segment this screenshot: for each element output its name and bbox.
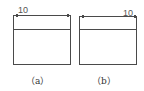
dimension-tick-right-b	[134, 15, 136, 18]
figure-b: 10 （b）	[72, 0, 144, 91]
dimension-label-b: 10	[123, 9, 133, 18]
figure-a: 10 （a）	[0, 0, 72, 91]
dimension-tick-right-a	[67, 14, 69, 17]
dimension-label-a: 10	[18, 6, 28, 15]
divider-line-b	[80, 29, 136, 30]
caption-a: （a）	[26, 76, 49, 86]
rectangle-a	[13, 15, 71, 65]
dimension-tick-left-b	[82, 15, 84, 18]
caption-b: （b）	[92, 76, 116, 86]
rectangle-b	[79, 16, 137, 65]
divider-line-a	[14, 29, 70, 30]
